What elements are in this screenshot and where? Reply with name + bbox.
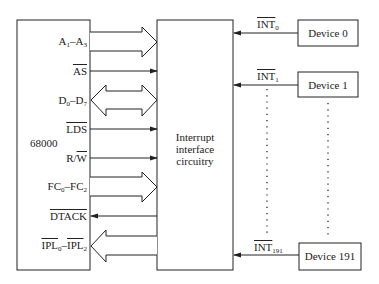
label-fc-bus: FC0–FC2	[48, 181, 87, 194]
label-rw: R/W	[66, 153, 87, 164]
fc-bus-arrow	[90, 172, 157, 202]
address-bus-arrow	[90, 27, 157, 57]
device-191-label: Device 191	[299, 251, 361, 262]
label-data-bus: D0–D7	[59, 95, 87, 108]
label-address-bus: A1–A3	[59, 36, 87, 49]
device-0-label: Device 0	[298, 28, 358, 39]
interface-label: Interrupt interface circuitry	[157, 131, 233, 167]
data-bus-arrow	[91, 85, 157, 116]
cpu-label: 68000	[30, 138, 58, 149]
label-int1: INT1	[257, 71, 279, 84]
device-1-label: Device 1	[298, 80, 358, 91]
ipl-bus-arrow	[91, 230, 157, 262]
label-as: AS	[73, 66, 87, 77]
label-dtack: DTACK	[50, 211, 87, 222]
label-int191: INT191	[254, 242, 283, 255]
label-lds: LDS	[66, 124, 87, 135]
label-ipl-bus: IPL0–IPL2	[42, 240, 88, 253]
label-int0: INT0	[257, 19, 279, 32]
